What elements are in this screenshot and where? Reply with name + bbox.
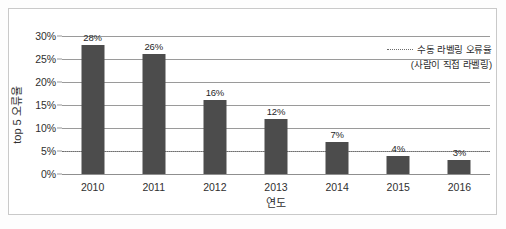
y-tick-label: 30%: [35, 30, 56, 42]
bar: [81, 45, 104, 174]
bar-value-label: 28%: [83, 32, 101, 43]
x-tick-label: 2013: [264, 181, 287, 193]
bar-value-label: 12%: [267, 106, 285, 117]
x-tick-label: 2014: [325, 181, 348, 193]
bar-value-label: 26%: [144, 41, 162, 52]
bar: [203, 100, 226, 174]
x-tick-label: 2016: [448, 181, 471, 193]
bar-group: 12%2013: [245, 36, 306, 174]
bar: [264, 119, 287, 174]
bar-group: 3%2016: [429, 36, 490, 174]
y-tick-label: 0%: [41, 168, 56, 180]
x-tick-label: 2012: [203, 181, 226, 193]
bar-value-label: 4%: [392, 143, 405, 154]
bar-group: 28%2010: [62, 36, 123, 174]
y-tick-label: 15%: [35, 99, 56, 111]
plot-area: 0%5%10%15%20%25%30% 28%201026%201116%201…: [62, 36, 490, 174]
bar-value-label: 7%: [330, 129, 343, 140]
x-axis-title: 연도: [62, 194, 490, 210]
bar-group: 26%2011: [123, 36, 184, 174]
y-axis-title: top 5 오류율: [8, 86, 24, 144]
bar: [142, 54, 165, 174]
bar: [326, 142, 349, 174]
bar: [448, 160, 471, 174]
bar: [387, 156, 410, 174]
bar-group: 16%2012: [184, 36, 245, 174]
y-tick-label: 10%: [35, 122, 56, 134]
x-tick-label: 2011: [142, 181, 165, 193]
bar-group: 7%2014: [307, 36, 368, 174]
gridline: [62, 174, 490, 175]
y-tick-label: 25%: [35, 53, 56, 65]
bar-value-label: 16%: [206, 87, 224, 98]
y-tick-label: 20%: [35, 76, 56, 88]
y-tick-label: 5%: [41, 145, 56, 157]
bar-group: 4%2015: [368, 36, 429, 174]
bar-value-label: 3%: [453, 147, 466, 158]
x-tick-label: 2015: [387, 181, 410, 193]
x-tick-label: 2010: [81, 181, 104, 193]
chart-figure: top 5 오류율 연도 수동 라벨링 오류율 (사람이 직접 라벨링) 0%5…: [0, 0, 506, 229]
